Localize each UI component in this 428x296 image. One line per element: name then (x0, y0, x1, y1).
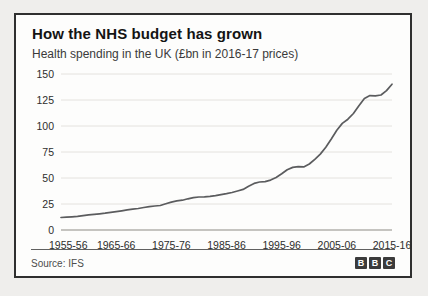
source-label: Source: IFS (31, 258, 84, 269)
y-tick-label: 75 (42, 146, 54, 158)
y-tick-label: 25 (42, 198, 54, 210)
y-tick-label: 50 (42, 172, 54, 184)
chart-subtitle: Health spending in the UK (£bn in 2016-1… (32, 47, 410, 61)
nhs-spending-line-chart: 02550751001251501955-561965-661975-76198… (16, 61, 414, 257)
y-tick-label: 150 (36, 68, 54, 80)
bbc-logo-block-b2: B (369, 257, 381, 269)
bbc-logo: B B C (355, 257, 395, 269)
chart-footer: Source: IFS B B C (31, 249, 395, 276)
chart-card: How the NHS budget has grown Health spen… (14, 13, 412, 278)
spending-line-series (61, 84, 392, 217)
bbc-logo-block-b1: B (355, 257, 367, 269)
y-tick-label: 100 (36, 120, 54, 132)
line-chart: 02550751001251501955-561965-661975-76198… (16, 61, 414, 257)
chart-title: How the NHS budget has grown (32, 25, 410, 42)
bbc-logo-block-c: C (383, 257, 395, 269)
y-tick-label: 0 (48, 224, 54, 236)
y-tick-label: 125 (36, 94, 54, 106)
